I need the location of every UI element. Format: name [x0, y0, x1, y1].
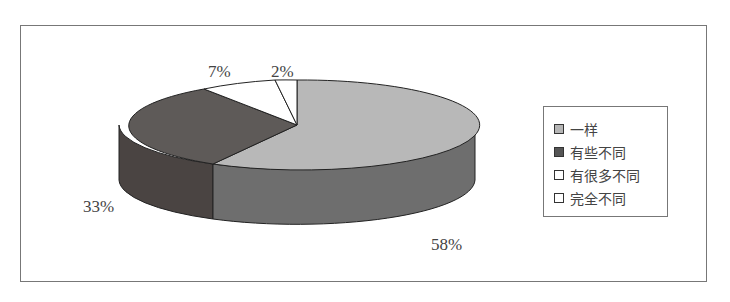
legend-item: 有些不同 [554, 140, 667, 163]
legend-swatch-icon [554, 124, 564, 134]
legend-label: 有很多不同 [570, 165, 640, 185]
legend-swatch-icon [554, 170, 564, 180]
label-2-percent: 2% [271, 62, 294, 82]
legend-item: 完全不同 [554, 186, 667, 209]
label-58-percent: 58% [431, 235, 462, 255]
legend-label: 完全不同 [570, 188, 626, 208]
legend-item: 一样 [554, 117, 667, 140]
legend: 一样 有些不同 有很多不同 完全不同 [543, 106, 668, 217]
legend-label: 一样 [570, 119, 598, 139]
legend-swatch-icon [554, 147, 564, 157]
label-33-percent: 33% [83, 197, 114, 217]
label-7-percent: 7% [208, 62, 231, 82]
legend-item: 有很多不同 [554, 163, 667, 186]
legend-label: 有些不同 [570, 142, 626, 162]
legend-swatch-icon [554, 193, 564, 203]
